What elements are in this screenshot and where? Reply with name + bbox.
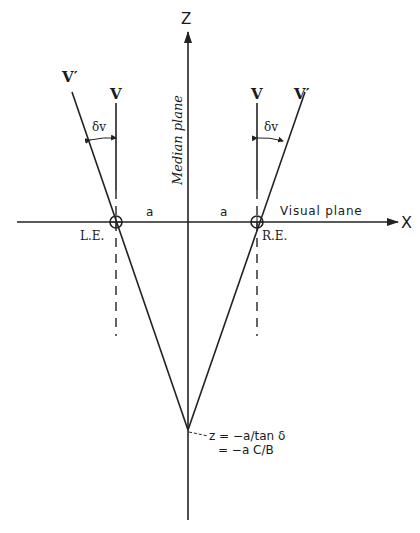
left-eye-label: L.E. [80,229,104,243]
z-axis-label: Z [181,10,191,28]
vertex-equation-line1: z = −a/tan δ [209,429,285,443]
right-eye-marker [251,216,263,228]
right-distance-a: a [220,205,227,219]
x-axis-label: X [401,213,412,232]
left-vprime-label: V′ [61,68,78,86]
right-v-label: V [250,85,263,103]
right-vprime-line [188,92,305,430]
visual-plane-label: Visual plane [280,204,363,218]
right-vprime-label: V′ [293,85,310,103]
left-v-label: V [109,85,122,103]
left-eye-marker [110,216,122,228]
right-angle-label: δv [264,120,278,134]
right-eye-label: R.E. [262,229,287,243]
median-plane-label: Median plane [170,95,185,186]
vertex-leader-line [189,432,208,436]
vertex-equation-line2: = −a C/B [218,443,274,457]
left-angle-arc [90,138,116,140]
binocular-geometry-diagram: Z X Median plane Visual plane L.E. R.E. … [0,0,420,533]
left-distance-a: a [146,205,153,219]
right-angle-arc [257,138,283,141]
left-angle-label: δv [92,120,106,134]
